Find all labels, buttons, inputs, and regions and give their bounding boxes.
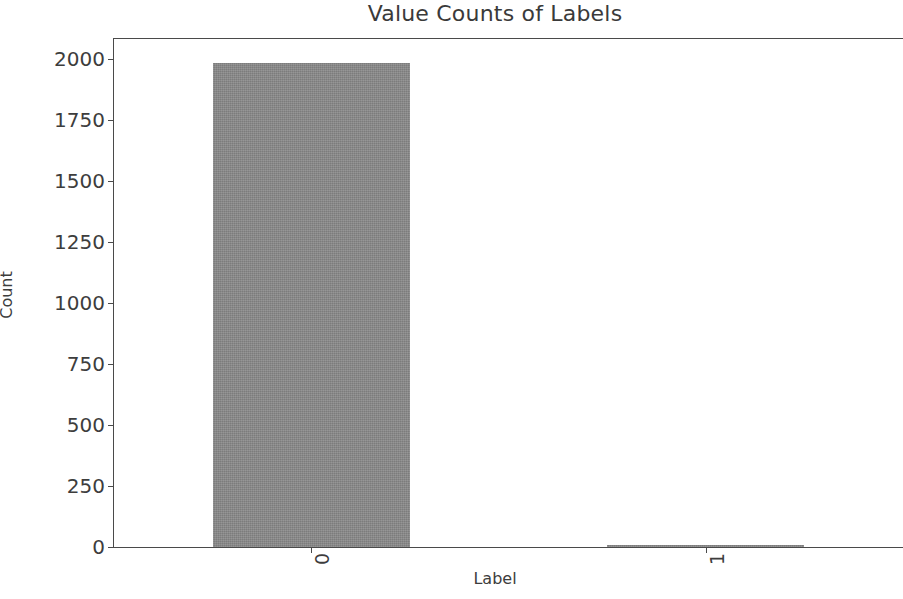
- chart-title: Value Counts of Labels: [113, 1, 877, 26]
- bars-layer: [114, 39, 903, 547]
- bar: [607, 545, 804, 547]
- plot-area: 025050075010001250150017502000 01: [113, 38, 903, 548]
- x-axis-label: Label: [473, 569, 516, 588]
- y-tick-label: 2000: [54, 47, 105, 71]
- x-tick-label: 1: [706, 553, 728, 565]
- y-tick-label: 0: [92, 535, 105, 559]
- y-tick-label: 1750: [54, 108, 105, 132]
- y-axis-label: Count: [0, 271, 16, 319]
- y-tick-label: 250: [67, 474, 105, 498]
- y-tick-label: 1500: [54, 169, 105, 193]
- y-tick-label: 1250: [54, 230, 105, 254]
- x-tick-label: 0: [311, 553, 333, 565]
- y-tick-label: 500: [67, 413, 105, 437]
- y-tick-mark: [108, 547, 114, 548]
- bar: [213, 63, 410, 547]
- y-tick-label: 1000: [54, 291, 105, 315]
- y-tick-label: 750: [67, 352, 105, 376]
